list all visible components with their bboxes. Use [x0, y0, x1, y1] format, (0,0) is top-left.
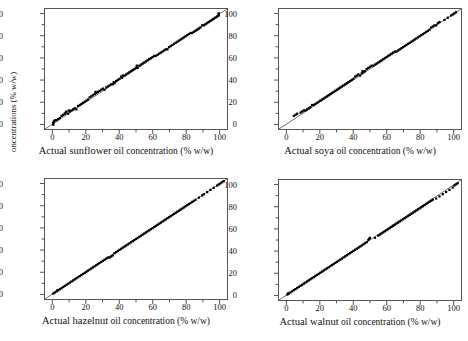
data-point-group [52, 12, 220, 126]
y-tick-label: 40 [0, 246, 3, 255]
data-point [136, 65, 138, 67]
plot-area-hazelnut [44, 178, 228, 300]
figure-canvas: oncentrations (% w/w) Actual sunflower o… [0, 0, 468, 341]
x-tick-label: 80 [169, 303, 203, 312]
x-tick-label: 80 [169, 133, 203, 142]
x-tick-label: 100 [437, 133, 468, 142]
y-tick-label: 80 [207, 203, 237, 212]
y-tick-label: 40 [207, 247, 237, 256]
data-point [369, 237, 371, 239]
panel-soya: Actual soya oil concentration (% w/w) 02… [234, 0, 468, 170]
data-point [65, 110, 67, 112]
y-tick-label: 60 [207, 225, 237, 234]
x-label-oil-type: walnut [310, 316, 339, 327]
data-point [67, 113, 69, 115]
x-axis-label-soya: Actual soya oil concentration (% w/w) [252, 145, 468, 157]
x-tick-label: 20 [69, 303, 103, 312]
panel-sunflower: oncentrations (% w/w) Actual sunflower o… [0, 0, 234, 170]
data-point [121, 77, 123, 79]
y-tick-label: 100 [0, 10, 3, 19]
data-point [447, 17, 449, 19]
x-label-oil-type: hazelnut [73, 315, 109, 326]
x-axis-label-sunflower: Actual sunflower oil concentration (% w/… [18, 145, 234, 157]
x-label-prefix: Actual [39, 145, 70, 156]
data-point [448, 189, 450, 191]
y-tick-label: 0 [207, 120, 237, 129]
y-tick-label: 20 [207, 269, 237, 278]
y-tick-label: 40 [207, 76, 237, 85]
x-tick-label: 60 [136, 133, 170, 142]
data-point [438, 21, 440, 23]
data-point [443, 19, 445, 21]
x-label-prefix: Actual [42, 315, 73, 326]
data-point [364, 70, 366, 72]
data-point [366, 241, 368, 243]
x-tick-label: 20 [303, 133, 337, 142]
x-tick-label: 60 [370, 133, 404, 142]
y-tick-label: 20 [0, 98, 3, 107]
y-tick-label: 100 [207, 10, 237, 19]
data-point [75, 108, 77, 110]
x-tick-label: 60 [370, 304, 404, 313]
data-point [428, 29, 430, 31]
data-point [435, 24, 437, 26]
x-label-oil-type: sunflower [69, 145, 111, 156]
data-point [194, 199, 196, 201]
x-tick-label: 40 [102, 303, 136, 312]
y-axis-label-top: oncentrations (% w/w) [9, 72, 18, 152]
y-tick-label: 0 [207, 291, 237, 300]
data-point [52, 124, 54, 126]
panel-walnut: Actual walnut oil concentration (% w/w) … [234, 171, 468, 341]
x-axis-label-walnut: Actual walnut oil concentration (% w/w) [252, 316, 468, 328]
y-tick-label: 20 [207, 98, 237, 107]
x-axis-label-hazelnut: Actual hazelnut oil concentration (% w/w… [18, 315, 234, 327]
x-tick-label: 40 [336, 133, 370, 142]
data-point [209, 189, 211, 191]
data-point [118, 78, 120, 80]
data-point [442, 193, 444, 195]
y-tick-label: 0 [0, 120, 3, 129]
data-point [452, 187, 454, 189]
data-point [445, 191, 447, 193]
data-point [352, 78, 354, 80]
panel-hazelnut: Estimated oil c Actual hazelnut oil conc… [0, 170, 234, 340]
scatter-svg-sunflower [45, 9, 227, 129]
x-tick-label: 0 [269, 304, 303, 313]
y-tick-label: 80 [0, 32, 3, 41]
data-point [457, 182, 459, 184]
y-tick-label: 60 [0, 54, 3, 63]
data-point [87, 98, 89, 100]
x-tick-label: 40 [336, 304, 370, 313]
plot-area-soya [278, 8, 462, 130]
x-tick-label: 80 [403, 304, 437, 313]
x-label-prefix: Actual [284, 145, 315, 156]
x-tick-label: 100 [203, 133, 237, 142]
x-tick-label: 0 [35, 133, 69, 142]
data-point [374, 237, 376, 239]
y-tick-label: 80 [207, 32, 237, 41]
data-point [296, 113, 298, 115]
data-point [432, 199, 434, 201]
x-tick-label: 100 [437, 304, 468, 313]
x-label-prefix: Actual [279, 316, 310, 327]
y-tick-label: 0 [0, 290, 3, 299]
y-tick-label: 80 [0, 202, 3, 211]
y-tick-label: 40 [0, 76, 3, 85]
x-tick-label: 80 [403, 133, 437, 142]
data-point [203, 193, 205, 195]
plot-area-sunflower [44, 8, 228, 130]
data-point [166, 48, 168, 50]
data-point [206, 191, 208, 193]
x-tick-label: 20 [69, 133, 103, 142]
data-point [112, 254, 114, 256]
x-tick-label: 60 [136, 303, 170, 312]
x-label-suffix: oil concentration (% w/w) [108, 316, 210, 326]
y-tick-label: 60 [207, 54, 237, 63]
data-point-group [52, 180, 225, 295]
data-point-group [286, 182, 459, 296]
data-point [438, 195, 440, 197]
data-point [198, 196, 200, 198]
data-point [455, 11, 457, 13]
x-label-suffix: oil concentration (% w/w) [339, 317, 441, 327]
x-tick-label: 100 [203, 303, 237, 312]
